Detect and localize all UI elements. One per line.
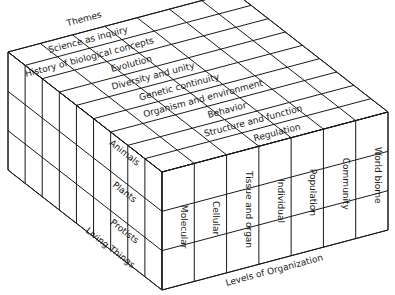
level-label: Population — [308, 169, 318, 216]
cube-diagram: Themes Levels of Organization Living Thi… — [0, 0, 395, 295]
level-label: Individual — [276, 179, 286, 223]
level-label: Cellular — [211, 201, 221, 236]
level-label: Tissue and organ — [244, 170, 254, 248]
level-label: Molecular — [179, 205, 189, 249]
block-matrix-svg: Themes Levels of Organization Living Thi… — [0, 0, 395, 295]
level-label: Community — [341, 158, 351, 211]
themes-title: Themes — [65, 9, 103, 28]
level-label: World biome — [373, 147, 383, 204]
